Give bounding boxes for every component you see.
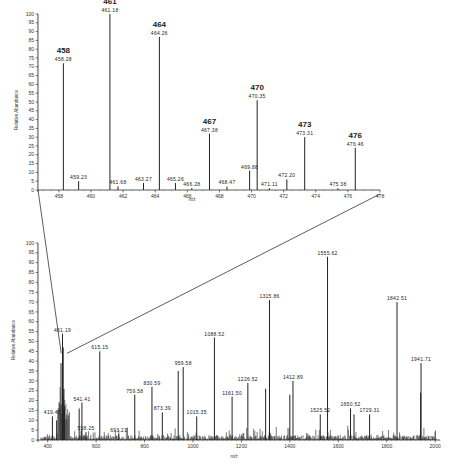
peak-label: 461.18 <box>101 7 118 13</box>
peak-label: 464.26 <box>151 30 168 36</box>
y-tick-label: 90 <box>28 259 34 265</box>
x-tick-label: 1200 <box>236 443 247 449</box>
y-tick-label: 5 <box>31 178 34 184</box>
peak-label: 473.31 <box>296 130 313 136</box>
y-tick-label: 40 <box>28 116 34 122</box>
peak-label: 1555.62 <box>317 250 337 256</box>
peak-label: 1015.35 <box>187 409 207 415</box>
isotope-series-label: 461 <box>103 0 117 6</box>
y-tick-label: 65 <box>28 309 34 315</box>
zoom-connector-lines <box>38 190 380 353</box>
x-tick-label: 476 <box>344 193 353 199</box>
peak-label: 541.41 <box>73 396 90 402</box>
y-tick-label: 35 <box>28 125 34 131</box>
peak-label: 558.25 <box>77 425 94 431</box>
y-tick-label: 95 <box>28 249 34 255</box>
peak-label: 461.19 <box>54 327 71 333</box>
peak-label: 873.39 <box>154 405 171 411</box>
peak-label: 759.58 <box>126 388 143 394</box>
y-tick-label: 15 <box>28 160 34 166</box>
x-tick-label: 2000 <box>430 443 441 449</box>
y-tick-label: 15 <box>28 407 34 413</box>
peak-label: 472.20 <box>278 172 295 178</box>
x-tick-label: 1600 <box>333 443 344 449</box>
y-tick-label: 80 <box>28 46 34 52</box>
y-tick-label: 25 <box>28 143 34 149</box>
peak-label: 959.58 <box>175 360 192 366</box>
peak-label: 693.21 <box>110 427 127 433</box>
peak-label: 1088.52 <box>204 331 224 337</box>
y-tick-label: 90 <box>28 28 34 34</box>
isotope-series-label: 458 <box>57 46 71 55</box>
peak-label: 466.28 <box>183 181 200 187</box>
x-tick-label: 1000 <box>187 443 198 449</box>
peak-label: 1525.52 <box>310 407 330 413</box>
x-tick-label: 464 <box>151 193 160 199</box>
y-tick-label: 55 <box>28 90 34 96</box>
x-tick-label: 800 <box>140 443 149 449</box>
peak-label: 1315.86 <box>259 293 279 299</box>
peak-label: 1842.51 <box>387 295 407 301</box>
y-tick-label: 35 <box>28 368 34 374</box>
y-tick-label: 85 <box>28 269 34 275</box>
full-peak-labels: 419.45461.19541.41558.25615.15693.21759.… <box>44 250 431 433</box>
y-tick-label: 65 <box>28 72 34 78</box>
y-tick-label: 0 <box>31 437 34 443</box>
y-tick-label: 25 <box>28 387 34 393</box>
y-tick-label: 20 <box>28 397 34 403</box>
inset-peaks <box>63 14 355 190</box>
inset-y-axis-title: Relative Abundance <box>14 89 19 130</box>
x-tick-label: 468 <box>215 193 224 199</box>
zoom-connector-right <box>67 194 380 353</box>
peak-label: 463.27 <box>135 176 152 182</box>
x-tick-label: 400 <box>44 443 53 449</box>
x-tick-label: 600 <box>92 443 101 449</box>
x-tick-label: 478 <box>376 193 385 199</box>
y-tick-label: 75 <box>28 289 34 295</box>
x-tick-label: 460 <box>87 193 96 199</box>
y-tick-label: 30 <box>28 378 34 384</box>
x-tick-label: 474 <box>312 193 321 199</box>
y-tick-label: 80 <box>28 279 34 285</box>
y-tick-label: 10 <box>28 417 34 423</box>
peak-label: 469.88 <box>241 164 258 170</box>
isotope-series-label: 476 <box>349 131 363 140</box>
y-tick-label: 70 <box>28 63 34 69</box>
peak-label: 419.45 <box>44 409 61 415</box>
y-tick-label: 85 <box>28 37 34 43</box>
y-tick-label: 20 <box>28 151 34 157</box>
isotope-series-label: 473 <box>298 120 312 129</box>
y-tick-label: 10 <box>28 169 34 175</box>
full-y-axis-title: Relative Abundance <box>11 319 16 360</box>
y-tick-label: 5 <box>31 427 34 433</box>
peak-label: 475.38 <box>329 181 346 187</box>
peak-label: 1412.89 <box>283 374 303 380</box>
peak-label: 467.38 <box>201 127 218 133</box>
y-tick-label: 45 <box>28 348 34 354</box>
peak-label: 1729.31 <box>360 407 380 413</box>
y-tick-label: 30 <box>28 134 34 140</box>
y-tick-label: 60 <box>28 318 34 324</box>
peak-label: 471.11 <box>261 181 278 187</box>
x-tick-label: 1800 <box>381 443 392 449</box>
x-tick-label: 458 <box>55 193 64 199</box>
x-tick-label: 472 <box>279 193 288 199</box>
y-tick-label: 45 <box>28 107 34 113</box>
y-tick-label: 50 <box>28 99 34 105</box>
peak-label: 459.23 <box>70 174 87 180</box>
isotope-series-label: 467 <box>203 117 217 126</box>
peak-label: 1941.71 <box>411 356 431 362</box>
full-axes: 0510152025303540455055606570758085909510… <box>26 240 441 449</box>
y-tick-label: 100 <box>26 240 35 246</box>
peak-label: 615.15 <box>91 344 108 350</box>
inset-spectrum-chart: 0510152025303540455055606570758085909510… <box>14 0 384 202</box>
y-tick-label: 50 <box>28 338 34 344</box>
full-x-axis-title: m/z <box>230 454 238 459</box>
y-tick-label: 100 <box>26 11 35 17</box>
peak-label: 468.47 <box>218 179 235 185</box>
isotope-series-label: 464 <box>153 20 167 29</box>
peak-label: 1161.50 <box>222 390 242 396</box>
peak-label: 470.35 <box>249 93 266 99</box>
y-tick-label: 70 <box>28 299 34 305</box>
peak-label: 461.68 <box>109 179 126 185</box>
